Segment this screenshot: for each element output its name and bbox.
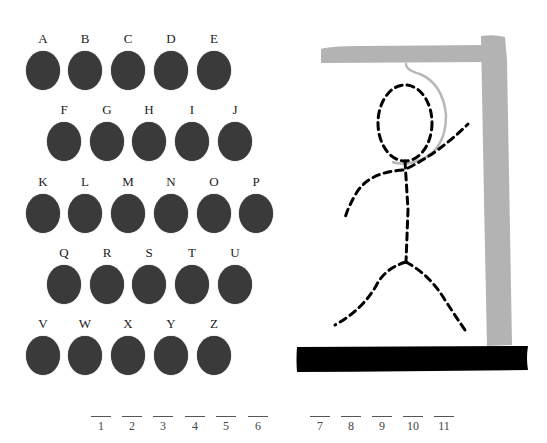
letter-label: J [217,103,253,117]
blank-number: 10 [401,420,425,433]
letter-label: N [153,175,189,189]
letter-key-g[interactable]: G [89,103,125,163]
letter-button[interactable] [218,265,252,304]
figure-left-arm [345,170,403,218]
letter-button[interactable] [26,336,60,375]
letter-label: I [174,103,210,117]
letter-label: K [25,175,61,189]
letter-key-x[interactable]: X [110,317,146,377]
letter-button[interactable] [26,51,60,90]
letter-blank: 5 [214,416,238,438]
blank-underline [185,416,205,417]
letter-button[interactable] [47,265,81,304]
letter-button[interactable] [132,122,166,161]
letter-blank: 2 [120,416,144,438]
letter-key-f[interactable]: F [46,103,82,163]
letter-blank: 11 [432,416,456,438]
blank-number: 2 [120,420,144,433]
letter-button[interactable] [26,194,60,233]
letter-label: A [25,32,61,46]
letter-key-y[interactable]: Y [153,317,189,377]
letter-label: T [174,246,210,260]
letter-button[interactable] [111,51,145,90]
letter-blank: 7 [308,416,332,438]
blank-underline [310,416,330,417]
letter-button[interactable] [239,194,273,233]
letter-key-d[interactable]: D [153,32,189,92]
gallows-top-beam [321,45,490,63]
letter-label: S [131,246,167,260]
blank-underline [122,416,142,417]
blank-underline [434,416,454,417]
letter-label: V [25,317,61,331]
letter-key-r[interactable]: R [89,246,125,306]
letter-label: L [67,175,103,189]
letter-button[interactable] [218,122,252,161]
blank-underline [403,416,423,417]
blank-number: 1 [89,420,113,433]
letter-label: R [89,246,125,260]
blank-underline [248,416,268,417]
letter-label: Y [153,317,189,331]
letter-button[interactable] [111,194,145,233]
letter-label: X [110,317,146,331]
letter-button[interactable] [175,265,209,304]
letter-key-e[interactable]: E [196,32,232,92]
letter-key-w[interactable]: W [67,317,103,377]
letter-key-k[interactable]: K [25,175,61,235]
letter-key-n[interactable]: N [153,175,189,235]
letter-key-p[interactable]: P [238,175,274,235]
blank-number: 3 [151,420,175,433]
letter-button[interactable] [90,122,124,161]
letter-button[interactable] [47,122,81,161]
letter-label: H [131,103,167,117]
figure-left-leg [335,262,406,325]
letter-label: O [196,175,232,189]
letter-label: C [110,32,146,46]
letter-key-b[interactable]: B [67,32,103,92]
letter-key-h[interactable]: H [131,103,167,163]
blank-underline [91,416,111,417]
letter-key-q[interactable]: Q [46,246,82,306]
letter-label: Q [46,246,82,260]
letter-key-t[interactable]: T [174,246,210,306]
letter-key-m[interactable]: M [110,175,146,235]
blank-underline [341,416,361,417]
blank-number: 4 [183,420,207,433]
letter-key-l[interactable]: L [67,175,103,235]
letter-key-c[interactable]: C [110,32,146,92]
letter-key-a[interactable]: A [25,32,61,92]
letter-label: Z [196,317,232,331]
letter-label: M [110,175,146,189]
letter-key-s[interactable]: S [131,246,167,306]
blank-underline [153,416,173,417]
letter-button[interactable] [197,194,231,233]
letter-key-o[interactable]: O [196,175,232,235]
letter-key-z[interactable]: Z [196,317,232,377]
letter-button[interactable] [90,265,124,304]
letter-button[interactable] [154,51,188,90]
letter-button[interactable] [154,194,188,233]
letter-label: P [238,175,274,189]
letter-button[interactable] [111,336,145,375]
letter-label: D [153,32,189,46]
gallows-base [297,346,529,372]
letter-button[interactable] [154,336,188,375]
letter-label: B [67,32,103,46]
letter-button[interactable] [132,265,166,304]
letter-button[interactable] [197,51,231,90]
letter-key-u[interactable]: U [217,246,253,306]
letter-label: E [196,32,232,46]
letter-label: W [67,317,103,331]
letter-blank: 4 [183,416,207,438]
letter-button[interactable] [68,194,102,233]
letter-blank: 10 [401,416,425,438]
letter-button[interactable] [197,336,231,375]
letter-key-v[interactable]: V [25,317,61,377]
letter-key-i[interactable]: I [174,103,210,163]
letter-button[interactable] [68,51,102,90]
letter-button[interactable] [68,336,102,375]
blank-number: 11 [432,420,456,433]
letter-key-j[interactable]: J [217,103,253,163]
letter-button[interactable] [175,122,209,161]
